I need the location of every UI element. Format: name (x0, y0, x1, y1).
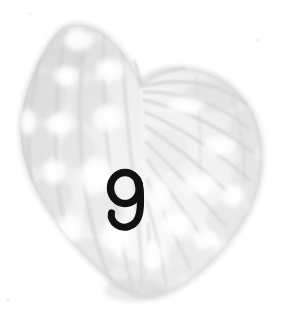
artwork-canvas: 9 butterfly-wing-pair (0, 0, 286, 316)
wing-sketch-illustration (0, 0, 286, 316)
